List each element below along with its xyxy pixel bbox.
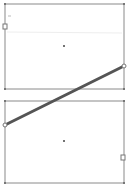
top-rect-guide [7,32,122,33]
top-left-resize-handle[interactable] [3,24,7,29]
bottom-right-resize-handle[interactable] [121,155,125,160]
drawing-canvas[interactable] [0,0,128,186]
connector-end-handle[interactable] [3,123,7,127]
connector-start-handle[interactable] [122,64,126,68]
bottom-center-dot [63,140,65,142]
top-center-dot [63,45,65,47]
bottom-rect-corner-bl[interactable] [4,182,6,184]
top-rect-corner-br[interactable] [123,88,125,90]
top-rect-corner-tl[interactable] [4,3,6,5]
bottom-rect-corner-tl[interactable] [4,100,6,102]
connector-line[interactable] [5,66,124,125]
bottom-rect-corner-br[interactable] [123,182,125,184]
bottom-rectangle[interactable] [5,101,124,183]
top-rect-corner-tr[interactable] [123,3,125,5]
canvas-svg [0,0,128,186]
bottom-rect-corner-tr[interactable] [123,100,125,102]
top-rect-corner-bl[interactable] [4,88,6,90]
